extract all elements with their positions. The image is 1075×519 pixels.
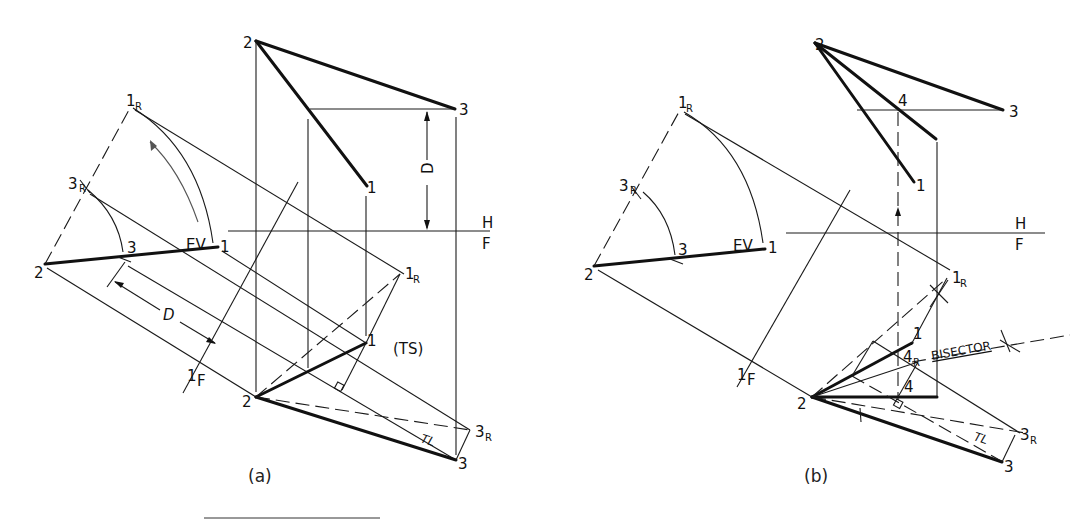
label-4r: 4 [903, 348, 913, 366]
label-1: 1 [367, 179, 377, 197]
panel-a: D H F 2 3 1 1 R 3 R 2 3 1 EV [34, 34, 493, 518]
arrowhead-icon [150, 140, 157, 151]
front-line-2-3r [256, 397, 470, 430]
label-3: 3 [458, 455, 468, 473]
label-3: 3 [678, 241, 688, 259]
subscript-r: R [686, 103, 693, 114]
front-line-2-1r [256, 274, 400, 397]
label-2: 2 [815, 36, 825, 54]
label-1: 1 [916, 177, 926, 195]
fold-line-1-f [183, 182, 298, 393]
label-3r: 3 [619, 177, 629, 195]
tick-mark [118, 257, 131, 262]
rotation-arc-1 [133, 108, 213, 243]
rotation-arc-1 [684, 112, 763, 243]
subscript-r: R [630, 185, 637, 196]
aux-line-2-1r [594, 110, 680, 266]
subscript-r: R [960, 278, 967, 289]
label-2: 2 [584, 266, 594, 284]
label-2: 2 [34, 264, 44, 282]
label-1: 1 [367, 332, 377, 350]
top-edge-2-1 [256, 41, 367, 186]
label-ts: (TS) [393, 340, 423, 358]
subscript-r: R [79, 183, 86, 194]
arrowhead-icon [424, 111, 430, 121]
subscript-r: R [1030, 435, 1037, 446]
fold-label-f: F [1015, 236, 1024, 254]
fold-label-f: F [482, 235, 491, 253]
fold-label-f: F [747, 371, 756, 389]
label-3r: 3 [1020, 426, 1030, 444]
label-2: 2 [242, 393, 252, 411]
label-tl: TL [972, 430, 990, 448]
projector [222, 251, 366, 343]
arc-mark [860, 408, 861, 422]
label-4: 4 [898, 92, 908, 110]
subscript-r: R [485, 432, 492, 443]
label-2: 2 [797, 395, 807, 413]
top-edge-2-3 [256, 41, 455, 109]
fold-label-1: 1 [737, 366, 747, 384]
top-edge-2-4-ext [815, 43, 936, 139]
subscript-r: R [413, 274, 420, 285]
arrowhead-icon [895, 207, 901, 216]
arrowhead-icon [424, 220, 430, 230]
label-3: 3 [1009, 103, 1019, 121]
fold-label-1: 1 [187, 367, 197, 385]
tick-mark [670, 259, 683, 264]
aux-line-2-1r [45, 108, 130, 264]
label-ev: EV [733, 237, 753, 255]
label-3r: 3 [475, 423, 485, 441]
fold-label-h: H [1015, 215, 1026, 233]
label-4: 4 [904, 378, 914, 396]
front-line-2-3r [812, 397, 1025, 433]
caption-b: (b) [804, 466, 828, 486]
dim-d-label-aux: D [163, 306, 175, 324]
label-3: 3 [1004, 458, 1014, 476]
fold-label-h: H [482, 214, 493, 232]
fold-line-1-f [737, 190, 850, 387]
label-2: 2 [243, 34, 253, 52]
projector [598, 270, 812, 397]
bisector-label: BISECTOR [930, 339, 992, 363]
rotation-arrow [150, 142, 198, 222]
front-line-2-1r [812, 278, 947, 397]
descriptive-geometry-figure: D H F 2 3 1 1 R 3 R 2 3 1 EV [0, 0, 1075, 519]
fold-label-f: F [197, 372, 206, 390]
projector [135, 110, 404, 274]
label-1: 1 [913, 325, 923, 343]
top-edge-2-3 [815, 43, 1003, 110]
subscript-r: R [913, 357, 920, 368]
projector [47, 268, 256, 397]
label-3r: 3 [68, 175, 78, 193]
label-1: 1 [768, 239, 778, 257]
label-ev: EV [186, 236, 206, 254]
caption-a: (a) [248, 466, 272, 486]
panel-b: 2 4 3 1 H F 1 R 3 R 2 3 1 EV 1 F [584, 36, 1070, 486]
dim-d-label-top: D [419, 162, 437, 174]
front-edge-2-1 [812, 343, 912, 397]
rotation-arc-3 [643, 192, 675, 255]
top-edge-2-1 [815, 43, 914, 182]
label-3: 3 [459, 101, 469, 119]
rotation-arc-3 [88, 190, 123, 252]
front-edge-2-3 [256, 397, 456, 460]
projector [90, 194, 470, 430]
label-3: 3 [127, 239, 137, 257]
arc-mark [930, 280, 948, 307]
